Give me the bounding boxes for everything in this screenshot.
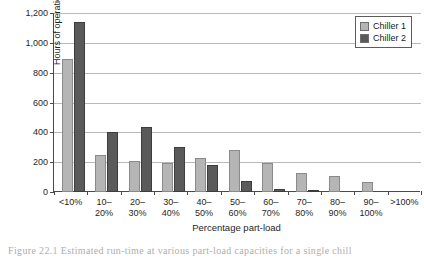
x-tick-mark bbox=[87, 191, 88, 195]
x-tick-label: >100% bbox=[382, 197, 424, 208]
legend-item: Chiller 2 bbox=[360, 32, 406, 44]
x-tick-mark bbox=[321, 191, 322, 195]
x-tick-mark bbox=[187, 191, 188, 195]
legend-swatch-icon bbox=[360, 34, 369, 43]
x-tick-mark bbox=[221, 191, 222, 195]
y-tick-label: 1,000 bbox=[25, 38, 48, 47]
bar-group bbox=[259, 13, 292, 192]
x-tick-label-line: 100% bbox=[349, 208, 393, 219]
legend-swatch-icon bbox=[360, 22, 369, 31]
x-tick-mark bbox=[121, 191, 122, 195]
y-tick-label: 200 bbox=[33, 158, 48, 167]
bar-chiller-2 bbox=[274, 189, 285, 192]
chart-legend: Chiller 1Chiller 2 bbox=[355, 16, 412, 48]
x-tick-mark bbox=[388, 191, 389, 195]
bar-chiller-2 bbox=[107, 132, 118, 192]
bar-chiller-1 bbox=[62, 59, 73, 192]
legend-label: Chiller 2 bbox=[373, 32, 406, 44]
x-tick-mark bbox=[54, 191, 55, 195]
bar-group bbox=[59, 13, 92, 192]
y-tick-label: 1,200 bbox=[25, 9, 48, 18]
bar-group bbox=[226, 13, 259, 192]
x-tick-mark bbox=[288, 191, 289, 195]
bar-chiller-2 bbox=[141, 127, 152, 192]
bar-group bbox=[293, 13, 326, 192]
bar-chiller-1 bbox=[262, 163, 273, 192]
bar-chiller-2 bbox=[74, 22, 85, 192]
x-tick-mark bbox=[254, 191, 255, 195]
x-tick-mark bbox=[154, 191, 155, 195]
bar-group bbox=[126, 13, 159, 192]
y-tick-label: 600 bbox=[33, 98, 48, 107]
figure-chart: 02004006008001,0001,200 Hours of operati… bbox=[0, 0, 424, 259]
bar-group bbox=[92, 13, 125, 192]
bar-chiller-2 bbox=[241, 181, 252, 192]
bar-chiller-1 bbox=[329, 176, 340, 192]
y-tick-label: 400 bbox=[33, 128, 48, 137]
x-tick-mark bbox=[421, 191, 422, 195]
x-tick-mark bbox=[354, 191, 355, 195]
y-tick-label: 800 bbox=[33, 68, 48, 77]
bar-chiller-1 bbox=[129, 161, 140, 192]
bar-chiller-2 bbox=[207, 165, 218, 192]
legend-item: Chiller 1 bbox=[360, 20, 406, 32]
bar-chiller-2 bbox=[174, 147, 185, 192]
figure-caption: Figure 22.1 Estimated run-time at variou… bbox=[8, 245, 418, 257]
bar-chiller-2 bbox=[308, 190, 319, 192]
x-tick-label-line: >100% bbox=[382, 197, 424, 208]
bar-group bbox=[159, 13, 192, 192]
bar-chiller-1 bbox=[362, 182, 373, 192]
bar-chiller-1 bbox=[162, 163, 173, 192]
bar-chiller-1 bbox=[195, 158, 206, 192]
bar-chiller-1 bbox=[296, 173, 307, 192]
legend-label: Chiller 1 bbox=[373, 20, 406, 32]
y-tick-label: 0 bbox=[43, 188, 48, 197]
x-axis-title: Percentage part-load bbox=[53, 222, 420, 233]
bar-chiller-1 bbox=[229, 150, 240, 193]
bar-chiller-1 bbox=[95, 155, 106, 192]
bar-group bbox=[192, 13, 225, 192]
